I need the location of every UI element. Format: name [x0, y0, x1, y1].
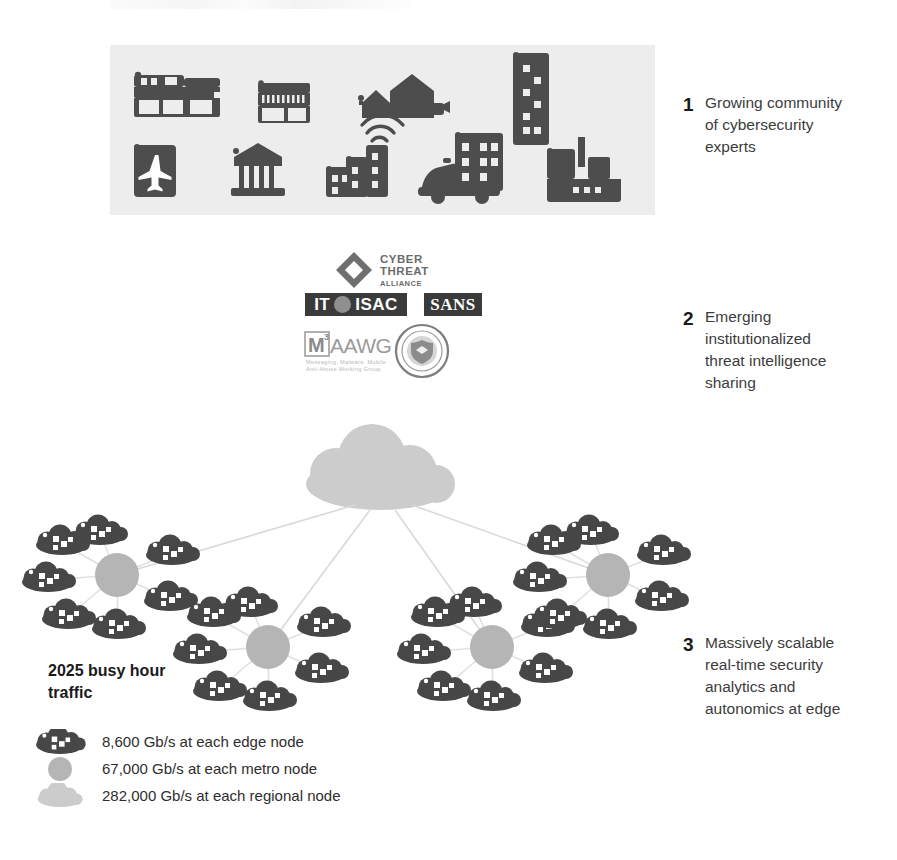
callout-2: 2 Emerging institutionalized threat inte…	[683, 306, 888, 394]
edge-cloud	[467, 681, 521, 712]
residential-homes-icon	[358, 74, 450, 118]
callout-1: 1 Growing community of cybersecurity exp…	[683, 92, 888, 158]
metro-node	[586, 553, 630, 597]
edge-cloud	[397, 634, 451, 665]
edge-cloud	[635, 581, 689, 612]
it-isac-right: ISAC	[355, 295, 398, 315]
edge-cloud	[533, 599, 587, 630]
regional-cloud-swatch	[30, 783, 102, 809]
m3aawg-mark: M	[308, 334, 325, 356]
m3aawg-tagline1: Messaging, Malware, Mobile	[306, 359, 386, 365]
m3aawg-logo: M 3 AAWG Messaging, Malware, Mobile Anti…	[304, 331, 408, 375]
it-isac-left: IT	[314, 295, 330, 315]
edge-cloud	[92, 609, 146, 640]
edge-cloud	[519, 653, 573, 684]
edge-cloud	[583, 609, 637, 640]
cta-line3: ALLIANCE	[380, 279, 422, 288]
highrise-tower-icon	[513, 52, 549, 145]
metro-cluster	[513, 515, 691, 640]
it-isac-logo: IT ISAC	[305, 293, 407, 316]
legend-label: 67,000 Gb/s at each metro node	[102, 760, 317, 778]
metro-node	[246, 625, 290, 669]
clipped-header-artifact	[110, 0, 410, 9]
edge-cloud	[513, 562, 567, 593]
metro-cluster	[22, 515, 200, 640]
office-building-icon	[134, 72, 220, 117]
regional-cloud-node	[306, 424, 455, 510]
sans-logo: SANS	[424, 293, 482, 316]
legend-row: 282,000 Gb/s at each regional node	[30, 782, 450, 809]
legend-label: 282,000 Gb/s at each regional node	[102, 787, 341, 805]
apartment-building-icon	[455, 132, 503, 191]
factory-icon	[547, 137, 621, 202]
storefront-icon	[258, 80, 310, 123]
m3aawg-tagline2: Anti-Abuse Working Group	[306, 366, 381, 372]
callout-2-text: Emerging institutionalized threat intell…	[705, 306, 827, 394]
edge-cloud	[295, 653, 349, 684]
legend-row: 67,000 Gb/s at each metro node	[30, 755, 450, 782]
legend-label: 8,600 Gb/s at each edge node	[102, 733, 304, 751]
edge-cloud	[22, 562, 76, 593]
legend-list: 8,600 Gb/s at each edge node 67,000 Gb/s…	[30, 728, 450, 809]
callout-1-text: Growing community of cybersecurity exper…	[705, 92, 842, 158]
it-isac-globe-icon	[334, 296, 351, 313]
edge-cloud	[173, 634, 227, 665]
edge-cloud	[297, 607, 351, 638]
metro-node	[95, 553, 139, 597]
m3aawg-superscript: 3	[324, 332, 329, 342]
metro-node-swatch	[30, 756, 102, 782]
airport-icon	[134, 144, 176, 197]
legend-row: 8,600 Gb/s at each edge node	[30, 728, 450, 755]
edge-cloud	[417, 671, 471, 702]
infographic-page: CYBER THREAT ALLIANCE IT ISAC SANS M 3 A…	[0, 0, 897, 860]
industry-icons-svg	[110, 45, 655, 215]
threat-intel-logos: CYBER THREAT ALLIANCE IT ISAC SANS M 3 A…	[300, 245, 485, 385]
industry-icon-panel	[110, 45, 655, 215]
metro-node	[470, 625, 514, 669]
bank-icon	[231, 143, 285, 196]
callout-2-number: 2	[683, 306, 705, 333]
callout-3-number: 3	[683, 632, 705, 659]
m3aawg-wordmark: AAWG	[330, 334, 391, 357]
callout-3: 3 Massively scalable real-time security …	[683, 632, 893, 720]
edge-cloud	[243, 681, 297, 712]
callout-3-text: Massively scalable real-time security an…	[705, 632, 840, 720]
edge-cloud-swatch	[30, 729, 102, 755]
edge-cloud	[144, 581, 198, 612]
cta-line1: CYBER	[380, 253, 423, 265]
edge-cloud	[146, 535, 200, 566]
metro-cluster	[173, 587, 351, 712]
callout-1-number: 1	[683, 92, 705, 119]
cyber-threat-alliance-logo: CYBER THREAT ALLIANCE	[332, 248, 452, 292]
cta-line2: THREAT	[380, 265, 429, 277]
edge-cloud	[42, 599, 96, 630]
legend-title: 2025 busy hour traffic	[48, 660, 165, 705]
connected-buildings-wifi-icon	[326, 115, 403, 197]
edge-cloud	[637, 535, 691, 566]
dhs-seal-logo	[394, 323, 450, 379]
edge-cloud	[193, 671, 247, 702]
